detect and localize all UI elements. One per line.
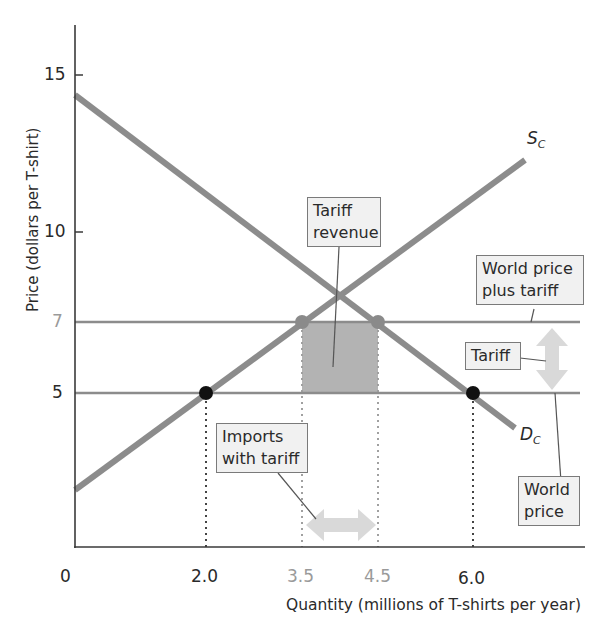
point-demand-world (466, 386, 480, 400)
chart-canvas (0, 0, 593, 626)
x-tick-4-5: 4.5 (364, 566, 391, 586)
y-tick-5: 5 (52, 382, 63, 402)
x-tick-3-5: 3.5 (287, 566, 314, 586)
tariff-arrow-icon (536, 328, 568, 390)
y-tick-7: 7 (52, 311, 63, 331)
y-axis-label: Price (dollars per T-shirt) (24, 128, 42, 312)
callout-line: revenue (313, 222, 375, 244)
tariff-revenue-callout: Tariff revenue (307, 197, 381, 247)
callout-line: with tariff (222, 448, 302, 470)
demand-curve-label: DC (520, 424, 541, 447)
callout-line: plus tariff (482, 280, 578, 302)
y-tick-15: 15 (44, 64, 66, 84)
point-supply-world (199, 386, 213, 400)
world-price-callout: World price (518, 476, 580, 526)
demand-label-main: D (520, 424, 533, 444)
x-axis-label: Quantity (millions of T-shirts per year) (286, 596, 581, 614)
demand-curve (75, 95, 515, 428)
demand-label-sub: C (533, 434, 541, 447)
callout-line: Imports (222, 426, 302, 448)
supply-label-main: S (527, 128, 538, 148)
x-tick-2: 2.0 (191, 566, 218, 586)
callout-line: price (524, 501, 574, 523)
world-price-plus-tariff-callout: World price plus tariff (476, 255, 584, 305)
callout-line: World price (482, 258, 578, 280)
callout-line: World (524, 479, 574, 501)
callout-line: Tariff (313, 200, 375, 222)
point-supply-tariff (295, 315, 309, 329)
x-tick-6: 6.0 (458, 568, 485, 588)
y-tick-10: 10 (44, 221, 66, 241)
x-tick-0: 0 (60, 566, 71, 586)
imports-with-tariff-callout: Imports with tariff (216, 423, 308, 473)
tariff-callout: Tariff (465, 342, 521, 370)
point-demand-tariff (371, 315, 385, 329)
supply-curve-label: SC (527, 128, 545, 151)
tariff-revenue-area (302, 322, 378, 393)
supply-label-sub: C (538, 138, 546, 151)
imports-arrow-icon (306, 509, 376, 541)
callout-line: Tariff (471, 345, 515, 367)
